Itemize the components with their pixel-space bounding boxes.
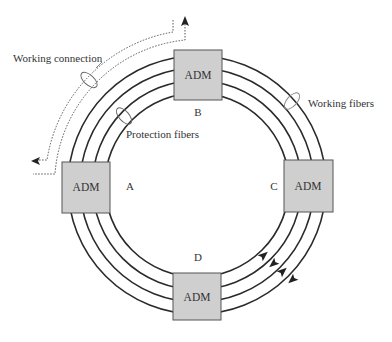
protection-fibers-ellipse [114, 105, 135, 127]
working-connection-ellipse [78, 70, 100, 91]
adm-node-a: ADM [62, 162, 110, 213]
working-connection-path [33, 20, 185, 174]
arrow-outer-cw-icon [286, 274, 299, 287]
adm-d-label: ADM [184, 291, 211, 303]
fiber-ring-2 [80, 68, 314, 302]
protection-fibers-label: Protection fibers [126, 128, 199, 140]
working-fibers-label: Working fibers [308, 97, 374, 109]
adm-node-d: ADM [173, 273, 221, 320]
arrow-ring3-cw-icon [267, 258, 280, 271]
arrow-ring2-ccw-icon [277, 265, 290, 278]
node-label-b: B [194, 106, 201, 118]
ring-diagram: Working connection Protection fibers Wor… [0, 0, 392, 342]
arrow-left-icon [31, 157, 40, 165]
node-label-d: D [194, 251, 202, 263]
adm-b-label: ADM [185, 69, 212, 81]
node-label-a: A [126, 180, 134, 192]
adm-c-label: ADM [295, 180, 322, 192]
adm-a-label: ADM [73, 181, 100, 193]
adm-node-c: ADM [284, 160, 333, 212]
node-label-c: C [270, 180, 277, 192]
arrow-inner-ccw-icon [258, 249, 271, 262]
working-connection-label: Working connection [13, 52, 103, 64]
adm-node-b: ADM [174, 50, 222, 100]
